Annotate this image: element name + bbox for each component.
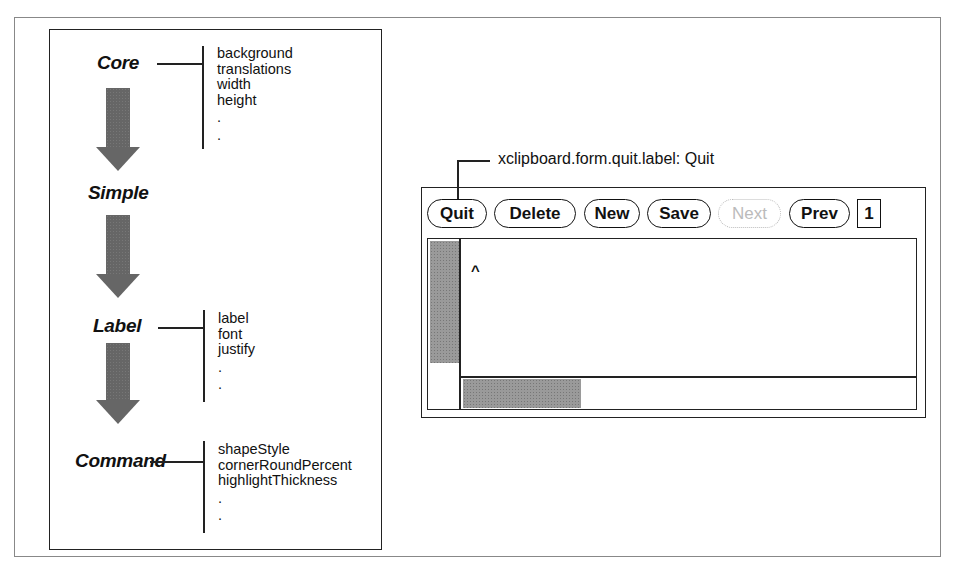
connector-core [157, 63, 203, 65]
prev-button[interactable]: Prev [789, 199, 850, 228]
resource: . [218, 491, 352, 507]
class-label: Label [93, 315, 141, 337]
resource-callout: xclipboard.form.quit.label: Quit [498, 150, 714, 168]
resource: highlightThickness [218, 473, 352, 489]
class-simple: Simple [88, 182, 149, 204]
new-button[interactable]: New [584, 199, 640, 228]
text-cursor: ^ [471, 262, 480, 279]
resource: . [217, 110, 293, 126]
resource: . [218, 377, 255, 393]
quit-button[interactable]: Quit [427, 199, 487, 228]
connector-label [158, 327, 204, 329]
resource: . [217, 128, 293, 144]
resource-list-label: label font justify . . [218, 311, 255, 393]
resource: width [217, 77, 293, 93]
class-core: Core [97, 52, 139, 74]
resource: background [217, 46, 293, 62]
page-number: 1 [857, 199, 881, 228]
down-arrow-icon [96, 343, 140, 425]
bracket-core [202, 46, 204, 149]
down-arrow-icon [96, 215, 140, 297]
resource: label [218, 311, 255, 327]
callout-line-h [458, 160, 490, 162]
resource: height [217, 93, 293, 109]
down-arrow-icon [96, 88, 140, 170]
delete-button[interactable]: Delete [494, 199, 576, 228]
resource: shapeStyle [218, 442, 352, 458]
resource: . [218, 508, 352, 524]
vertical-scrollbar-thumb[interactable] [430, 241, 459, 363]
next-button[interactable]: Next [718, 199, 781, 228]
resource: . [218, 360, 255, 376]
resource-list-command: shapeStyle cornerRoundPercent highlightT… [218, 442, 352, 524]
bracket-label [203, 310, 205, 402]
resource: font [218, 327, 255, 343]
resource-list-core: background translations width height . . [217, 46, 293, 143]
resource: translations [217, 62, 293, 78]
save-button[interactable]: Save [647, 199, 711, 228]
resource: justify [218, 342, 255, 358]
resource: cornerRoundPercent [218, 458, 352, 474]
bracket-command [203, 441, 205, 533]
horizontal-scrollbar-thumb[interactable] [463, 379, 581, 408]
connector-command [150, 461, 204, 463]
scrollbar-divider-h [459, 376, 917, 378]
scrollbar-divider-v [459, 238, 461, 410]
